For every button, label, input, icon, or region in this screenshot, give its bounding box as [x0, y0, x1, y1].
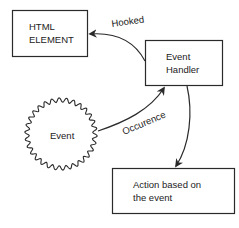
action-node: Action based on the event: [113, 169, 235, 214]
event-handler-node: Event Handler: [146, 41, 223, 86]
hooked-edge: Hooked: [90, 14, 145, 61]
html-element-node: HTML ELEMENT: [13, 11, 88, 57]
event-handler-label-line1: Event: [166, 51, 191, 62]
action-label-line2: the event: [133, 192, 172, 203]
html-element-label-line2: ELEMENT: [29, 34, 74, 45]
occurence-label: Occurence: [120, 109, 167, 137]
event-handler-label-line2: Handler: [166, 64, 199, 75]
event-node: Event: [25, 98, 97, 170]
action-label-line1: Action based on: [133, 179, 201, 190]
event-diagram: HTML ELEMENT Event Handler Event Action …: [0, 0, 239, 228]
hooked-label: Hooked: [111, 14, 145, 29]
action-edge: [176, 86, 190, 166]
hooked-arrow-icon: [90, 34, 145, 61]
action-arrow-icon: [176, 86, 190, 166]
html-element-label-line1: HTML: [29, 21, 55, 32]
occurence-edge: Occurence: [98, 88, 167, 137]
event-label: Event: [50, 130, 75, 141]
